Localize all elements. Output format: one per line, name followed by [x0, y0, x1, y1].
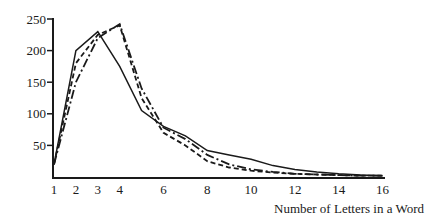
y-tick-label: 250 — [27, 12, 47, 27]
x-tick-label: 10 — [245, 182, 258, 197]
x-tick-label: 3 — [95, 182, 102, 197]
x-tick-label: 16 — [376, 182, 390, 197]
x-tick-label: 6 — [160, 182, 167, 197]
line-chart: 50100150200250 12346810121416 Number of … — [0, 0, 426, 220]
x-tick-label: 1 — [51, 182, 58, 197]
x-tick-label: 12 — [288, 182, 301, 197]
x-axis-title: Number of Letters in a Word — [274, 201, 424, 216]
x-tick-label: 8 — [204, 182, 211, 197]
y-tick-label: 100 — [27, 106, 47, 121]
x-tick-label: 2 — [73, 182, 80, 197]
x-axis-ticks: 12346810121416 — [51, 182, 390, 197]
y-axis-ticks: 50100150200250 — [27, 12, 54, 153]
y-tick-label: 200 — [27, 43, 47, 58]
x-tick-label: 4 — [116, 182, 123, 197]
x-tick-label: 14 — [332, 182, 346, 197]
y-tick-label: 50 — [33, 138, 46, 153]
series-solid — [54, 32, 383, 176]
plot-area — [54, 24, 383, 176]
y-tick-label: 150 — [27, 75, 47, 90]
